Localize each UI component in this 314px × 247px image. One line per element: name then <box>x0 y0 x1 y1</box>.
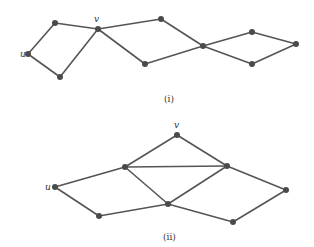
edge <box>28 23 55 54</box>
edge <box>252 44 296 64</box>
edge <box>55 187 99 216</box>
edge <box>233 190 286 222</box>
edge <box>55 23 98 29</box>
edge <box>98 19 161 29</box>
edge <box>168 204 233 222</box>
graph-i <box>25 16 299 80</box>
edge <box>177 135 227 166</box>
edge <box>125 135 177 167</box>
edge <box>161 19 203 46</box>
vertex-B <box>57 74 63 80</box>
vertex-H <box>249 61 255 67</box>
vertex-u <box>52 184 58 190</box>
edge <box>252 32 296 44</box>
edge <box>203 46 252 64</box>
vertex-D <box>142 61 148 67</box>
edge <box>99 204 168 216</box>
vertex-Q <box>224 163 230 169</box>
vertex-F <box>249 29 255 35</box>
edge <box>28 54 60 77</box>
edge <box>203 32 252 46</box>
edge <box>125 167 168 204</box>
label-v-graph-ii: v <box>174 120 179 130</box>
caption-i: (i) <box>164 94 174 104</box>
graph-figure: u v (i) u v (ii) <box>0 0 314 247</box>
vertex-R <box>165 201 171 207</box>
edge <box>98 29 145 64</box>
vertex-C <box>158 16 164 22</box>
vertex-v <box>95 26 101 32</box>
vertex-S <box>96 213 102 219</box>
vertex-P <box>122 164 128 170</box>
label-u-graph-ii: u <box>45 182 51 192</box>
vertex-E <box>200 43 206 49</box>
vertex-G <box>293 41 299 47</box>
edge <box>125 166 227 167</box>
edge <box>55 167 125 187</box>
edge <box>168 166 227 204</box>
vertex-v <box>174 132 180 138</box>
edge <box>227 166 286 190</box>
vertex-T <box>230 219 236 225</box>
caption-ii: (ii) <box>163 232 176 242</box>
label-u-graph-i: u <box>20 49 26 59</box>
label-v-graph-i: v <box>94 14 99 24</box>
vertex-u <box>25 51 31 57</box>
graph-ii <box>52 132 289 225</box>
edge <box>60 29 98 77</box>
edge <box>145 46 203 64</box>
vertex-W <box>283 187 289 193</box>
vertex-A <box>52 20 58 26</box>
